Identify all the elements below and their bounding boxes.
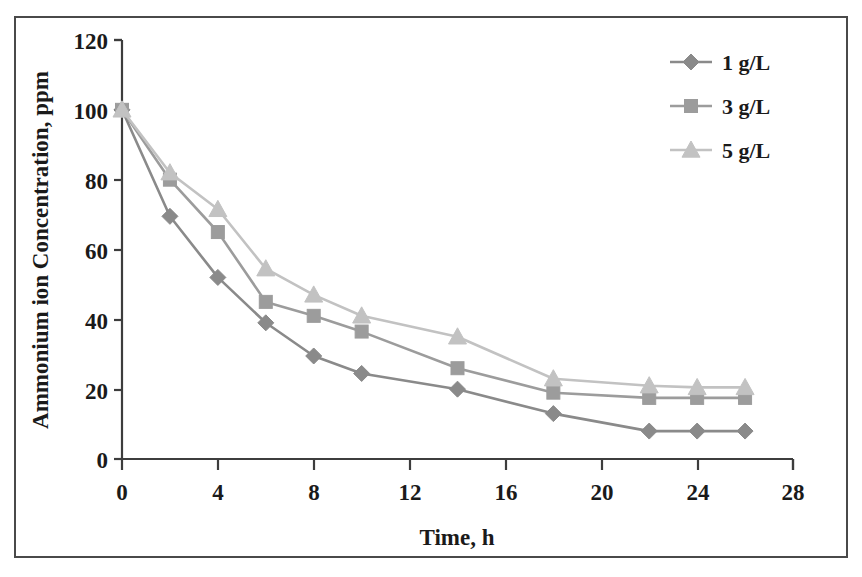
line-chart: 120 100 80 60 40 20 0 0 4 8 12 16 20 24 … (0, 0, 862, 577)
series-line (122, 110, 745, 388)
triangle-marker (544, 370, 562, 386)
square-marker (685, 100, 698, 113)
series-3-g-l (116, 103, 752, 404)
square-marker (211, 226, 224, 239)
y-tick-label: 20 (85, 379, 108, 404)
x-axis-title: Time, h (420, 525, 495, 550)
square-marker (547, 386, 560, 399)
x-tick-label: 0 (116, 480, 128, 505)
legend-label: 5 g/L (722, 138, 770, 163)
series-line (122, 110, 745, 398)
diamond-marker (689, 423, 705, 439)
y-tick-label: 60 (85, 239, 108, 264)
x-tick-label: 12 (399, 480, 422, 505)
square-marker (259, 295, 272, 308)
triangle-marker (305, 286, 323, 302)
x-tick-label: 4 (212, 480, 224, 505)
y-tick-label: 80 (85, 169, 108, 194)
diamond-marker (545, 406, 561, 422)
diamond-marker (354, 365, 370, 381)
diamond-marker (641, 423, 657, 439)
series-5-g-l (113, 101, 754, 395)
legend-item-5-g-l[interactable]: 5 g/L (670, 138, 770, 163)
legend-label: 1 g/L (722, 50, 770, 75)
x-tick-marks (122, 459, 793, 470)
legend-item-3-g-l[interactable]: 3 g/L (670, 94, 770, 119)
series-layer (113, 101, 754, 439)
legend-label: 3 g/L (722, 94, 770, 119)
y-tick-label: 0 (97, 448, 109, 473)
series-1-g-l (114, 102, 753, 439)
x-tick-labels: 0 4 8 12 16 20 24 28 (116, 480, 804, 505)
chart-figure: 120 100 80 60 40 20 0 0 4 8 12 16 20 24 … (0, 0, 862, 577)
x-tick-label: 16 (495, 480, 518, 505)
y-tick-label: 40 (85, 309, 108, 334)
triangle-marker (209, 200, 227, 216)
square-marker (307, 309, 320, 322)
x-tick-label: 8 (308, 480, 320, 505)
y-tick-label: 120 (74, 29, 109, 54)
diamond-marker (306, 348, 322, 364)
diamond-marker (683, 54, 699, 70)
x-tick-label: 28 (782, 480, 805, 505)
y-tick-labels: 120 100 80 60 40 20 0 (74, 29, 109, 473)
diamond-marker (737, 423, 753, 439)
square-marker (355, 325, 368, 338)
y-axis-title: Ammonium ion Concentration, ppm (28, 71, 53, 429)
square-marker (451, 362, 464, 375)
triangle-marker (353, 307, 371, 323)
y-tick-label: 100 (74, 99, 109, 124)
legend-item-1-g-l[interactable]: 1 g/L (670, 50, 770, 75)
x-tick-label: 24 (687, 480, 711, 505)
chart-legend: 1 g/L3 g/L5 g/L (670, 50, 770, 163)
diamond-marker (450, 381, 466, 397)
x-tick-label: 20 (591, 480, 614, 505)
